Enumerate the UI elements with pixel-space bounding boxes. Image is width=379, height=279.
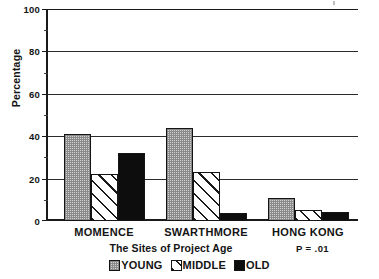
y-tick-label-40: 40 xyxy=(29,131,40,142)
bar-hongkong-middle[interactable] xyxy=(295,210,322,221)
bar-chart-figure: Percentage 100 80 60 40 20 0 xyxy=(0,0,379,279)
x-label-momence: MOMENCE xyxy=(74,226,134,238)
bar-swarthmore-middle[interactable] xyxy=(193,172,220,221)
legend-label-young: YOUNG xyxy=(121,260,162,271)
bar-hongkong-young[interactable] xyxy=(268,198,295,221)
y-tick-label-20: 20 xyxy=(29,173,40,184)
bar-swarthmore-young[interactable] xyxy=(166,128,193,221)
bar-hongkong-old[interactable] xyxy=(322,212,349,222)
legend-item-middle[interactable]: MIDDLE xyxy=(171,260,226,271)
bars-layer xyxy=(46,9,358,221)
legend-swatch-middle-icon xyxy=(171,260,182,271)
legend-item-young[interactable]: YOUNG xyxy=(109,260,162,271)
x-label-hongkong: HONG KONG xyxy=(272,226,344,238)
y-tick-label-60: 60 xyxy=(29,88,40,99)
bar-momence-middle[interactable] xyxy=(91,174,118,221)
chart-legend: YOUNG MIDDLE OLD xyxy=(0,260,379,271)
bar-momence-old[interactable] xyxy=(118,153,145,221)
legend-label-middle: MIDDLE xyxy=(183,260,226,271)
legend-swatch-young-icon xyxy=(109,260,120,271)
x-axis-title: The Sites of Project Age xyxy=(46,242,296,254)
p-value-annotation: P = .01 xyxy=(296,243,366,254)
y-axis-tick-labels: 100 80 60 40 20 0 xyxy=(14,9,40,221)
bar-momence-young[interactable] xyxy=(64,134,91,221)
x-label-swarthmore: SWARTHMORE xyxy=(164,226,248,238)
y-tick-label-100: 100 xyxy=(24,4,40,15)
legend-swatch-old-icon xyxy=(234,260,245,271)
bar-swarthmore-old[interactable] xyxy=(220,213,247,222)
legend-label-old: OLD xyxy=(246,260,270,271)
legend-item-old[interactable]: OLD xyxy=(234,260,270,271)
y-tick-label-80: 80 xyxy=(29,46,40,57)
scan-artifact-speck xyxy=(333,1,335,5)
y-tick-label-0: 0 xyxy=(35,216,40,227)
x-axis-category-labels: MOMENCE SWARTHMORE HONG KONG xyxy=(46,226,358,242)
